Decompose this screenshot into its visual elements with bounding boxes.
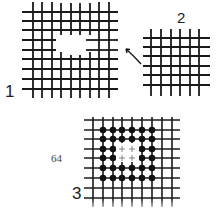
- grid-1: [22, 2, 118, 98]
- panel-label-2: 2: [177, 10, 185, 25]
- panel-label-3: 3: [72, 185, 81, 202]
- grid-2: [143, 29, 210, 96]
- arrow-icon: [126, 49, 141, 64]
- panel-label-1: 1: [5, 83, 14, 100]
- page-number: 64: [51, 153, 62, 164]
- inner-cross-marks: [116, 143, 139, 162]
- figure-canvas: [0, 0, 217, 210]
